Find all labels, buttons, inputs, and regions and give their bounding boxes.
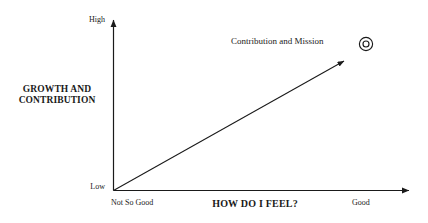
growth-vs-feeling-chart: High Low GROWTH AND CONTRIBUTION Not So … bbox=[0, 0, 428, 223]
target-marker-icon bbox=[359, 37, 372, 50]
y-axis-tick-low: Low bbox=[45, 183, 105, 192]
y-axis-title-line-2: CONTRIBUTION bbox=[6, 95, 108, 106]
y-axis-tick-high: High bbox=[45, 16, 105, 25]
x-axis-tick-right: Good bbox=[352, 199, 370, 208]
x-axis-tick-left: Not So Good bbox=[111, 199, 153, 208]
y-axis-title-line-1: GROWTH AND bbox=[6, 84, 108, 95]
x-axis-title: HOW DO I FEEL? bbox=[160, 198, 350, 209]
y-axis-title: GROWTH AND CONTRIBUTION bbox=[6, 84, 108, 105]
series-annotation-label: Contribution and Mission bbox=[231, 36, 324, 46]
trend-arrow bbox=[114, 61, 345, 191]
